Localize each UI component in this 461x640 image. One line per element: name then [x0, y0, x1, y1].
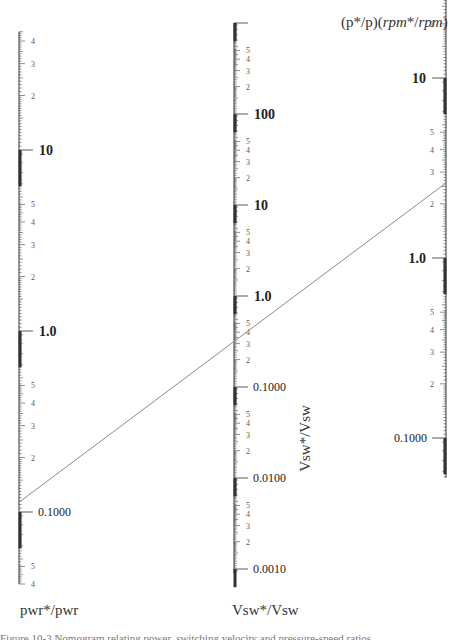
decade-label: 0.0010 [253, 562, 286, 576]
minor-tick-label: 2 [430, 380, 434, 389]
dense-tick-band [234, 23, 237, 41]
minor-tick-label: 4 [246, 237, 250, 246]
dense-tick-band [444, 258, 447, 294]
minor-tick-label: 2 [246, 447, 250, 456]
minor-tick-label: 5 [31, 381, 35, 390]
decade-label: 100 [254, 107, 275, 122]
minor-tick-label: 5 [246, 410, 250, 419]
minor-tick-label: 2 [31, 454, 35, 463]
minor-tick-label: 3 [246, 340, 250, 349]
decade-label: 0.1000 [394, 431, 427, 445]
minor-tick-label: 3 [246, 522, 250, 531]
minor-tick-label: 3 [246, 431, 250, 440]
minor-tick-label: 4 [31, 37, 35, 46]
right-title-rpm: rpm [383, 14, 407, 30]
dense-tick-band [234, 387, 237, 405]
minor-tick-label: 2 [246, 356, 250, 365]
minor-tick-label: 5 [31, 562, 35, 571]
minor-tick-label: 2 [31, 273, 35, 282]
right-title-rpm: rpm [419, 14, 443, 30]
dense-tick-band [444, 438, 447, 474]
decade-label: 0.1000 [253, 380, 286, 394]
minor-tick-label: 2 [31, 92, 35, 101]
minor-tick-label: 5 [31, 200, 35, 209]
right-title-part: */ [407, 14, 419, 30]
middle-axis-title: Vsw*/Vsw [232, 602, 299, 619]
left-scale-pwr: 4523450.100023451.023410 [19, 32, 72, 589]
dense-tick-band [234, 114, 237, 132]
minor-tick-label: 2 [246, 538, 250, 547]
minor-tick-label: 4 [246, 419, 250, 428]
minor-tick-label: 3 [246, 158, 250, 167]
minor-tick-label: 4 [31, 399, 35, 408]
left-axis-title: pwr*/pwr [20, 602, 78, 619]
decade-label: 0.1000 [38, 505, 71, 519]
minor-tick-label: 3 [31, 241, 35, 250]
dense-tick-band [234, 478, 237, 496]
dense-tick-band [444, 78, 447, 114]
dense-tick-band [234, 569, 237, 587]
minor-tick-label: 5 [246, 228, 250, 237]
decade-label: 10 [412, 71, 426, 86]
dense-tick-band [19, 331, 22, 367]
minor-tick-label: 5 [430, 128, 434, 137]
right-scale-p-rpm: 23450.100023451.023410 [394, 0, 447, 478]
minor-tick-label: 4 [246, 55, 250, 64]
decade-label: 1.0 [39, 324, 57, 339]
middle-axis-side-label: Vsw*/Vsw [297, 405, 314, 472]
decade-label: 0.0100 [253, 471, 286, 485]
minor-tick-label: 2 [246, 174, 250, 183]
minor-tick-label: 3 [430, 168, 434, 177]
minor-tick-label: 5 [246, 46, 250, 55]
minor-tick-label: 3 [430, 348, 434, 357]
minor-tick-label: 5 [246, 319, 250, 328]
minor-tick-label: 4 [31, 218, 35, 227]
decade-label: 1.0 [409, 251, 427, 266]
minor-tick-label: 3 [31, 422, 35, 431]
figure-caption-cutoff: Figure 10-3 Nomogram relating power, swi… [0, 632, 461, 640]
isopleth-line [18, 183, 446, 503]
middle-scale-vsw: 23450.001023450.010023450.100023451.0234… [234, 23, 287, 587]
decade-label: 10 [39, 143, 53, 158]
minor-tick-label: 2 [430, 200, 434, 209]
dense-tick-band [234, 296, 237, 314]
decade-label: 10 [254, 198, 268, 213]
decade-label: 1.0 [254, 289, 272, 304]
dense-tick-band [19, 512, 22, 548]
minor-tick-label: 4 [430, 326, 434, 335]
dense-tick-band [19, 150, 22, 186]
minor-tick-label: 3 [246, 249, 250, 258]
minor-tick-label: 4 [246, 510, 250, 519]
minor-tick-label: 2 [246, 265, 250, 274]
minor-tick-label: 3 [31, 60, 35, 69]
dense-tick-band [234, 205, 237, 223]
minor-tick-label: 5 [246, 501, 250, 510]
right-title-part: (p*/p)( [341, 14, 383, 30]
right-title-part: ) [443, 14, 448, 30]
minor-tick-label: 4 [31, 580, 35, 589]
minor-tick-label: 2 [246, 83, 250, 92]
minor-tick-label: 5 [430, 308, 434, 317]
right-axis-title: (p*/p)(rpm*/rpm) [341, 14, 448, 31]
minor-tick-label: 4 [430, 146, 434, 155]
minor-tick-label: 5 [246, 137, 250, 146]
minor-tick-label: 3 [246, 67, 250, 76]
minor-tick-label: 4 [246, 146, 250, 155]
